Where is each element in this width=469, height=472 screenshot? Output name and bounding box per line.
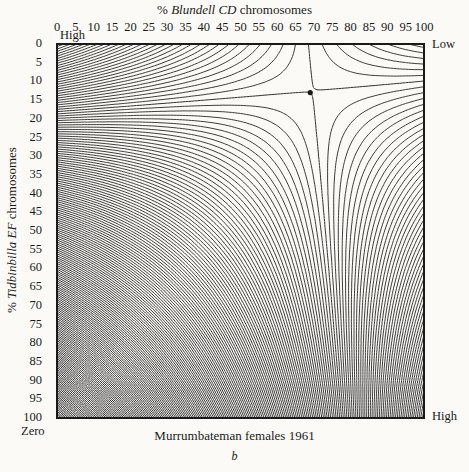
contour-plot <box>0 0 469 472</box>
panel-label: b <box>0 449 469 464</box>
caption: Murrumbateman females 1961 <box>0 428 469 444</box>
contour-line <box>57 232 239 418</box>
saddle-point-marker <box>308 90 313 95</box>
